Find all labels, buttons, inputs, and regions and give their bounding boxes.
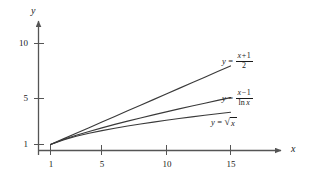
curve3-radical: √ x xyxy=(225,117,237,127)
curve1-fraction: x+1 2 xyxy=(236,52,253,71)
curve1-num-one: 1 xyxy=(247,51,251,60)
math-figure: y x 1 5 10 1 5 10 15 y = x+1 2 y = x−1 l… xyxy=(0,0,310,179)
curve3-equals: = xyxy=(217,118,222,127)
x-tick-label-1: 1 xyxy=(44,160,58,169)
curve3-lhs: y xyxy=(211,118,215,127)
y-tick-label-10: 10 xyxy=(10,39,28,48)
curve2-fraction: x−1 lnx xyxy=(236,89,253,108)
curve-label-sqrt-x: y = √ x xyxy=(211,117,237,127)
curve-label-x-minus-1-over-ln-x: y = x−1 lnx xyxy=(222,89,253,108)
curve3-radicand: x xyxy=(230,117,237,127)
y-tick-label-1: 1 xyxy=(14,140,28,149)
curve1-equals: = xyxy=(228,57,233,66)
x-tick-label-5: 5 xyxy=(95,160,109,169)
curve2-den-arg: x xyxy=(245,98,250,107)
curve2-num-one: 1 xyxy=(247,88,251,97)
x-tick-label-15: 15 xyxy=(224,160,238,169)
y-tick-label-5: 5 xyxy=(14,94,28,103)
x-axis-label: x xyxy=(291,144,295,154)
curve-x-plus-1-over-2 xyxy=(51,66,231,145)
curve2-lhs: y xyxy=(222,94,226,103)
curve-label-x-plus-1-over-2: y = x+1 2 xyxy=(222,52,253,71)
plot-canvas xyxy=(0,0,310,179)
curve1-denominator: 2 xyxy=(240,62,248,71)
curve1-lhs: y xyxy=(222,57,226,66)
curve2-equals: = xyxy=(228,94,233,103)
curve-sqrt-x xyxy=(51,112,231,144)
curve2-den-fn: ln xyxy=(238,98,244,107)
x-tick-label-10: 10 xyxy=(160,160,174,169)
y-axis-label: y xyxy=(31,6,35,16)
curve2-denominator: lnx xyxy=(236,99,251,108)
